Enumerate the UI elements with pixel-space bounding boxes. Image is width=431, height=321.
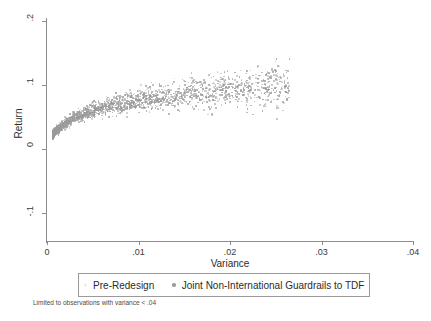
scatter-point xyxy=(287,77,289,79)
scatter-point xyxy=(229,96,231,98)
scatter-point xyxy=(194,90,196,92)
scatter-point xyxy=(272,71,274,73)
scatter-point xyxy=(240,83,242,85)
y-axis-line xyxy=(46,18,47,243)
scatter-point xyxy=(229,98,231,100)
scatter-point xyxy=(52,135,54,137)
scatter-point xyxy=(287,82,289,84)
scatter-point xyxy=(263,105,265,107)
scatter-point xyxy=(261,80,263,82)
scatter-point xyxy=(224,96,226,98)
y-tick-mark xyxy=(42,213,46,214)
scatter-point xyxy=(285,96,287,98)
scatter-point xyxy=(261,92,263,94)
scatter-point xyxy=(90,104,92,106)
scatter-point xyxy=(246,104,248,106)
scatter-point xyxy=(265,99,267,101)
scatter-plot-figure: .2.10-.1 0.01.02.03.04 Return Variance P… xyxy=(0,0,431,321)
scatter-point xyxy=(288,90,290,92)
scatter-point xyxy=(225,90,227,92)
scatter-point xyxy=(208,96,210,98)
scatter-point xyxy=(101,103,103,105)
scatter-point xyxy=(198,109,200,111)
scatter-point xyxy=(172,100,174,102)
scatter-point xyxy=(156,94,158,96)
scatter-point xyxy=(143,92,145,94)
scatter-point xyxy=(287,70,289,72)
scatter-point xyxy=(222,88,224,90)
x-tick-mark xyxy=(230,241,231,245)
scatter-point xyxy=(239,76,241,78)
scatter-point xyxy=(246,70,248,72)
scatter-point xyxy=(179,110,181,112)
scatter-point xyxy=(89,117,91,119)
x-axis-title: Variance xyxy=(130,258,330,269)
scatter-point xyxy=(267,99,269,101)
x-tick-mark xyxy=(413,241,414,245)
scatter-point xyxy=(191,82,193,84)
scatter-point xyxy=(225,102,227,104)
scatter-point xyxy=(159,85,161,87)
scatter-point xyxy=(270,75,272,77)
scatter-point xyxy=(273,99,275,101)
scatter-point xyxy=(237,93,239,95)
scatter-point xyxy=(113,98,115,100)
scatter-point xyxy=(98,113,100,115)
scatter-point xyxy=(238,98,240,100)
scatter-point xyxy=(73,115,75,117)
scatter-point xyxy=(125,102,127,104)
y-tick-label: 0 xyxy=(25,142,35,180)
scatter-point xyxy=(126,116,128,118)
scatter-point xyxy=(109,98,111,100)
scatter-point xyxy=(132,97,134,99)
y-tick-label: .1 xyxy=(25,78,35,116)
scatter-point xyxy=(78,121,80,123)
scatter-point xyxy=(268,72,270,74)
scatter-point xyxy=(259,75,261,77)
scatter-point xyxy=(123,110,125,112)
scatter-point xyxy=(101,115,103,117)
scatter-point xyxy=(276,105,278,107)
scatter-point xyxy=(255,74,257,76)
scatter-point xyxy=(94,109,96,111)
scatter-point xyxy=(245,73,247,75)
y-tick-mark xyxy=(42,21,46,22)
scatter-point xyxy=(257,86,259,88)
scatter-point xyxy=(129,106,131,108)
scatter-point xyxy=(91,118,93,120)
scatter-point xyxy=(165,85,167,87)
scatter-point xyxy=(126,112,128,114)
scatter-point xyxy=(275,79,277,81)
scatter-point xyxy=(219,89,221,91)
scatter-point xyxy=(288,97,290,99)
scatter-point xyxy=(102,118,104,120)
scatter-point xyxy=(274,92,276,94)
scatter-point xyxy=(271,100,273,102)
scatter-point xyxy=(231,92,233,94)
scatter-point xyxy=(250,70,252,72)
scatter-point xyxy=(199,91,201,93)
scatter-point xyxy=(236,75,238,77)
scatter-point xyxy=(259,104,261,106)
scatter-point xyxy=(189,89,191,91)
scatter-point xyxy=(230,89,232,91)
scatter-point xyxy=(154,100,156,102)
scatter-point xyxy=(185,89,187,91)
scatter-point xyxy=(196,82,198,84)
scatter-point xyxy=(181,102,183,104)
scatter-point xyxy=(198,91,200,93)
scatter-point xyxy=(56,130,58,132)
scatter-point xyxy=(199,81,201,83)
scatter-point xyxy=(284,80,286,82)
scatter-point xyxy=(172,83,174,85)
scatter-point xyxy=(214,100,216,102)
scatter-point xyxy=(205,90,207,92)
scatter-point xyxy=(122,97,124,99)
scatter-point xyxy=(264,84,266,86)
legend-item-pre-redesign[interactable]: Pre-Redesign xyxy=(75,280,164,291)
legend-item-joint-guardrails[interactable]: Joint Non-International Guardrails to TD… xyxy=(163,280,373,291)
scatter-point xyxy=(173,81,175,83)
scatter-point xyxy=(254,94,256,96)
scatter-point xyxy=(223,76,225,78)
x-tick-mark xyxy=(139,241,140,245)
